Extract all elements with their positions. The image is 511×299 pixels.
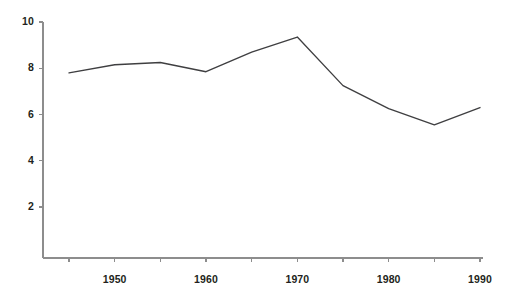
axis-group: [39, 22, 483, 262]
x-tick-label: 1970: [267, 273, 327, 285]
y-tick-label: 10: [6, 15, 34, 27]
y-tick-label: 2: [6, 200, 34, 212]
x-tick-label: 1960: [176, 273, 236, 285]
x-tick-label: 1980: [359, 273, 419, 285]
x-tick-label: 1950: [85, 273, 145, 285]
y-tick-label: 6: [6, 108, 34, 120]
data-series-line: [69, 37, 480, 125]
y-tick-label: 4: [6, 154, 34, 166]
line-chart: 246810 19501960197019801990: [0, 0, 511, 299]
x-axis-tick-marks: [69, 258, 480, 262]
series-group: [69, 37, 480, 125]
chart-canvas: [0, 0, 511, 299]
y-axis-tick-marks: [39, 22, 43, 207]
y-tick-label: 8: [6, 61, 34, 73]
x-tick-label: 1990: [450, 273, 510, 285]
